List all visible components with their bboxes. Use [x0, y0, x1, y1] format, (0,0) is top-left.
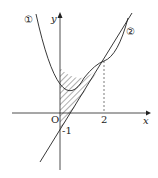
- y-axis-label: y: [51, 14, 57, 24]
- origin-label: O: [51, 115, 59, 125]
- x-axis-label: x: [143, 116, 149, 126]
- curve-1-label: ①: [24, 15, 33, 25]
- curve-2-label: ②: [126, 27, 135, 37]
- x-tick-label: 2: [101, 115, 107, 125]
- tangent-line-2: [40, 13, 132, 162]
- y-intercept-label: -1: [62, 126, 72, 136]
- y-axis-arrow-icon: [58, 12, 63, 18]
